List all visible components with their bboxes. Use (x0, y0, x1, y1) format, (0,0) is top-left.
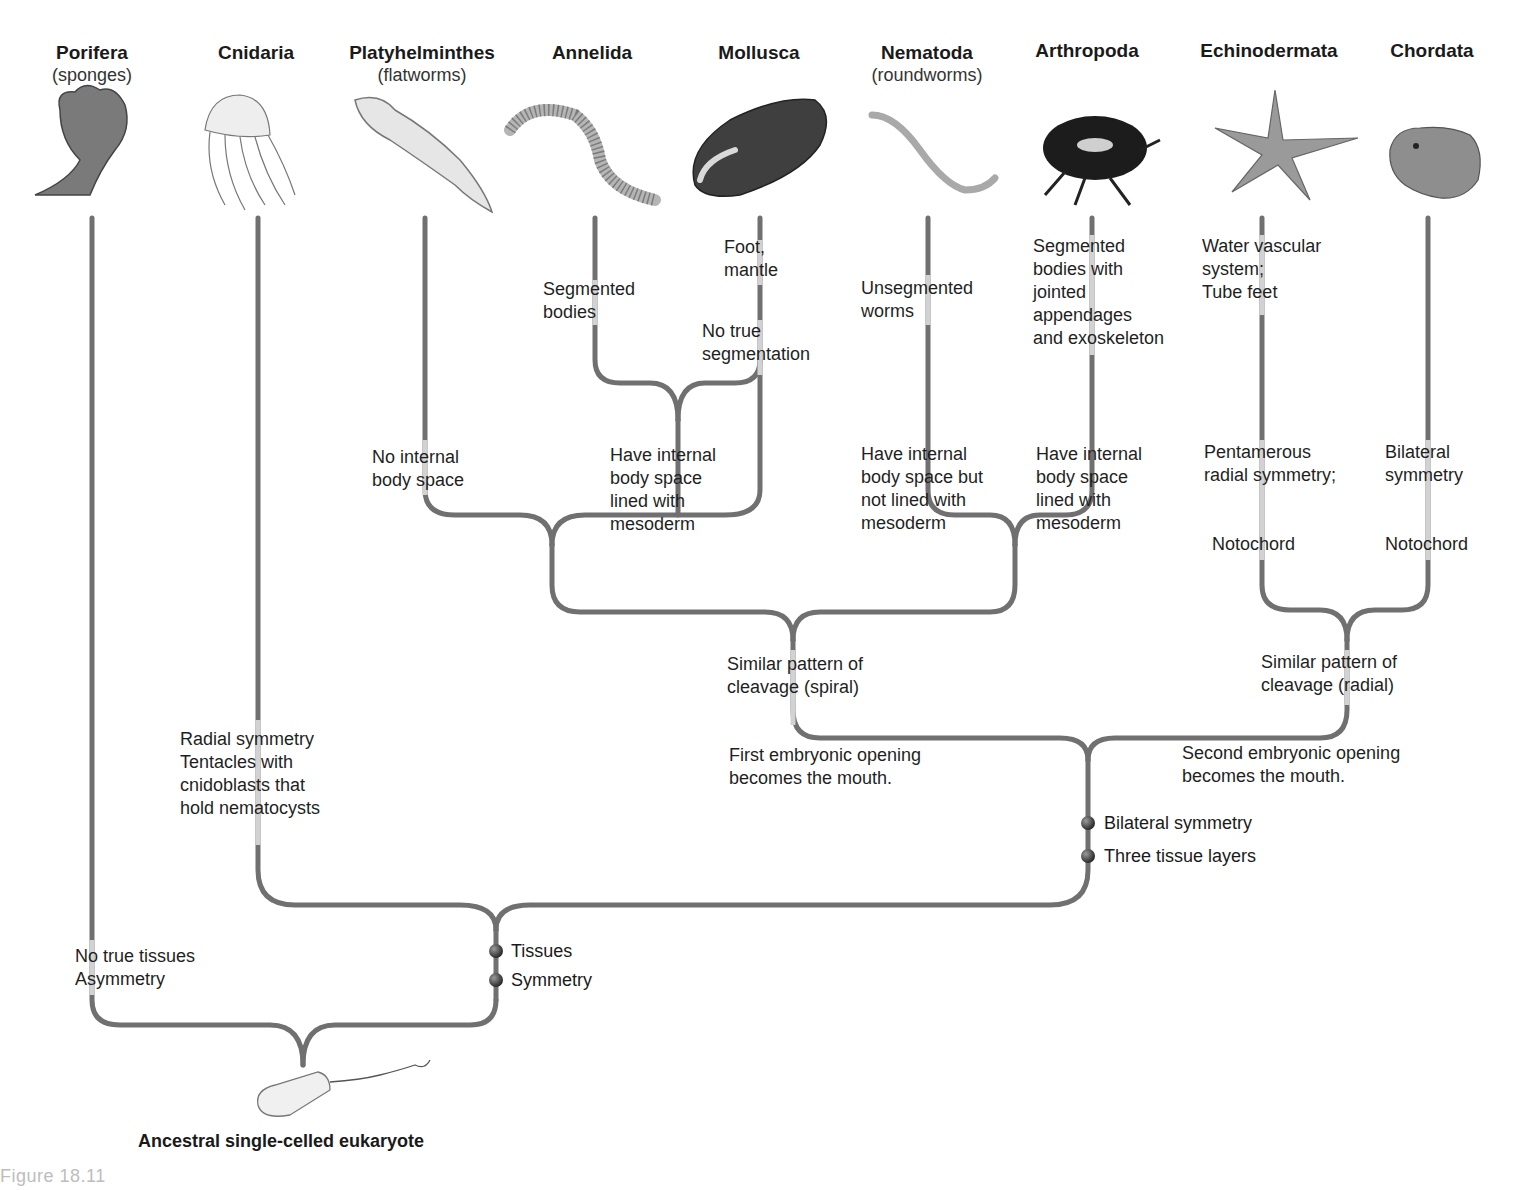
trait-notochord-chordata: Notochord (1385, 533, 1468, 556)
trait-porifera: No true tissues Asymmetry (75, 945, 195, 991)
phylum-common-name: (sponges) (52, 64, 132, 86)
trait-arthropoda: Segmented bodies with jointed appendages… (1033, 235, 1164, 350)
phylum-name: Porifera (52, 42, 132, 64)
phylum-porifera: Porifera (sponges) (52, 42, 132, 86)
ancestor-label: Ancestral single-celled eukaryote (138, 1131, 424, 1152)
phylum-name: Annelida (552, 42, 632, 64)
beetle-icon (1043, 116, 1160, 205)
trait-mollusca-foot: Foot, mantle (724, 236, 778, 282)
figure-caption: Figure 18.11 (0, 1166, 106, 1187)
phylum-name: Chordata (1390, 40, 1473, 62)
roundworm-icon (872, 115, 995, 190)
mussel-icon (693, 99, 826, 196)
phylum-name: Mollusca (718, 42, 799, 64)
phylogenetic-tree (0, 0, 1519, 1190)
phylum-mollusca: Mollusca (718, 42, 799, 64)
trait-acoelomate: No internal body space (372, 446, 464, 492)
phylum-platyhelminthes: Platyhelminthes (flatworms) (349, 42, 495, 86)
trait-deuterostome: Second embryonic opening becomes the mou… (1182, 742, 1400, 788)
trait-annelida: Segmented bodies (543, 278, 635, 324)
phylum-name: Cnidaria (218, 42, 294, 64)
node-marker (489, 944, 503, 958)
node-marker (489, 973, 503, 987)
sponge-icon (35, 85, 127, 195)
phylum-chordata: Chordata (1390, 40, 1473, 62)
marker-label-tissues: Tissues (511, 940, 572, 962)
phylum-name: Nematoda (871, 42, 982, 64)
flatworm-icon (355, 98, 492, 212)
phylum-nematoda: Nematoda (roundworms) (871, 42, 982, 86)
node-marker (1081, 816, 1095, 830)
branch-porifera (92, 218, 303, 1065)
branch-chordata (1347, 218, 1428, 640)
phylum-arthropoda: Arthropoda (1035, 40, 1138, 62)
phylum-common-name: (flatworms) (349, 64, 495, 86)
trait-coelomate: Have internal body space lined with meso… (610, 444, 716, 536)
trait-cnidaria: Radial symmetry Tentacles with cnidoblas… (180, 728, 320, 820)
branch-platyhelminthes (425, 218, 552, 545)
marker-label-symmetry: Symmetry (511, 969, 592, 991)
trait-bilateral-chordata: Bilateral symmetry (1385, 441, 1463, 487)
trait-spiral-cleavage: Similar pattern of cleavage (spiral) (727, 653, 863, 699)
trait-arthropoda-coelomate: Have internal body space lined with meso… (1036, 443, 1142, 535)
phylum-annelida: Annelida (552, 42, 632, 64)
phylum-cnidaria: Cnidaria (218, 42, 294, 64)
trait-mollusca-segmentation: No true segmentation (702, 320, 810, 366)
phylum-echinodermata: Echinodermata (1200, 40, 1337, 62)
branch-eumetazoa (303, 1000, 496, 1065)
starfish-icon (1215, 90, 1358, 200)
trait-notochord-echinodermata: Notochord (1212, 533, 1295, 556)
flagellate-icon (258, 1060, 430, 1116)
phylum-common-name: (roundworms) (871, 64, 982, 86)
trait-pentamerous: Pentamerous radial symmetry; (1204, 441, 1336, 487)
frog-icon (1390, 127, 1480, 198)
trait-protostome: First embryonic opening becomes the mout… (729, 744, 921, 790)
trait-pseudocoelomate: Have internal body space but not lined w… (861, 443, 983, 535)
phylum-name: Arthropoda (1035, 40, 1138, 62)
trait-radial-cleavage: Similar pattern of cleavage (radial) (1261, 651, 1397, 697)
marker-label-three-tissue-layers: Three tissue layers (1104, 845, 1256, 867)
branch-cnidaria (258, 218, 496, 930)
trait-echinodermata: Water vascular system; Tube feet (1202, 235, 1321, 304)
phylum-name: Echinodermata (1200, 40, 1337, 62)
trait-nematoda: Unsegmented worms (861, 277, 973, 323)
jellyfish-icon (205, 95, 295, 210)
earthworm-icon (510, 110, 655, 200)
phylum-name: Platyhelminthes (349, 42, 495, 64)
marker-label-bilateral-symmetry: Bilateral symmetry (1104, 812, 1252, 834)
node-marker (1081, 849, 1095, 863)
